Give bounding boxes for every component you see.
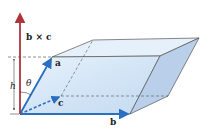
a-label: a bbox=[55, 58, 61, 68]
h-label: h bbox=[10, 81, 16, 91]
parallelepiped-diagram: h b × c a c b θ bbox=[0, 0, 209, 135]
theta-arc bbox=[20, 92, 31, 95]
b-label: b bbox=[110, 117, 116, 127]
theta-label: θ bbox=[26, 78, 32, 88]
cross-product-label: b × c bbox=[26, 32, 52, 42]
c-label: c bbox=[58, 98, 64, 108]
